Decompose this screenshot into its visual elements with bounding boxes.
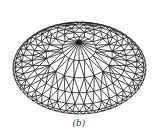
dome-mesh-edges (13, 22, 146, 114)
geodesic-dome-diagram (0, 0, 158, 136)
apex-hub (76, 39, 82, 45)
figure: (b) (0, 0, 158, 136)
figure-caption: (b) (0, 118, 158, 128)
